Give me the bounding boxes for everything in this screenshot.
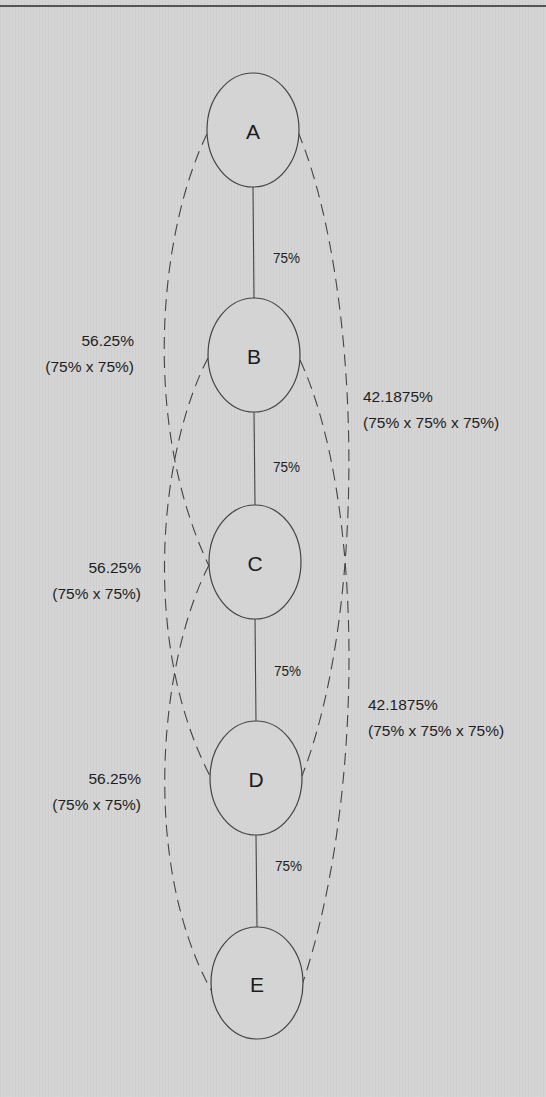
annotation-formula: (75% x 75% x 75%) — [363, 414, 499, 431]
annotation-value: 56.25% — [81, 332, 134, 349]
node-a: A — [207, 73, 299, 187]
nodes-group: ABCDE — [207, 73, 303, 1039]
annotation-left-2: 56.25%(75% x 75%) — [52, 559, 141, 602]
dashed-edge-c-e — [165, 565, 211, 990]
probability-chain-diagram: ABCDE 75%75%75%75% 56.25%(75% x 75%)56.2… — [0, 0, 546, 1097]
dashed-edge-a-d — [298, 132, 349, 776]
annotation-formula: (75% x 75%) — [52, 796, 141, 813]
annotation-formula: (75% x 75% x 75%) — [368, 722, 504, 739]
annotation-value: 42.1875% — [368, 696, 438, 713]
solid-edge-c-d — [255, 619, 256, 721]
annotation-left-1: 56.25%(75% x 75%) — [45, 332, 134, 375]
annotation-left-3: 56.25%(75% x 75%) — [52, 770, 141, 813]
annotation-formula: (75% x 75%) — [45, 358, 134, 375]
node-label: A — [246, 120, 260, 143]
edge-probability-label: 75% — [275, 857, 302, 874]
annotation-right-2: 42.1875%(75% x 75% x 75%) — [368, 696, 504, 739]
dashed-edge-b-d — [164, 358, 210, 776]
node-label: E — [250, 973, 264, 996]
annotation-value: 56.25% — [88, 770, 141, 787]
edge-probability-label: 75% — [274, 662, 301, 679]
diagram-page: ABCDE 75%75%75%75% 56.25%(75% x 75%)56.2… — [0, 0, 546, 1097]
node-b: B — [208, 298, 300, 412]
annotation-value: 42.1875% — [363, 388, 433, 405]
solid-edge-b-c — [254, 412, 255, 505]
solid-edge-a-b — [253, 187, 254, 298]
solid-edge-d-e — [256, 835, 257, 927]
node-c: C — [209, 505, 301, 619]
annotation-value: 56.25% — [88, 559, 141, 576]
edge-probability-label: 75% — [273, 249, 300, 266]
node-d: D — [210, 721, 302, 835]
node-label: B — [247, 345, 261, 368]
node-label: D — [248, 768, 263, 791]
annotation-formula: (75% x 75%) — [52, 585, 141, 602]
node-e: E — [211, 927, 303, 1039]
node-label: C — [247, 552, 262, 575]
dashed-edge-b-e — [300, 360, 349, 985]
edge-probability-label: 75% — [273, 458, 300, 475]
dashed-edge-a-c — [164, 134, 209, 566]
annotation-right-1: 42.1875%(75% x 75% x 75%) — [363, 388, 499, 431]
